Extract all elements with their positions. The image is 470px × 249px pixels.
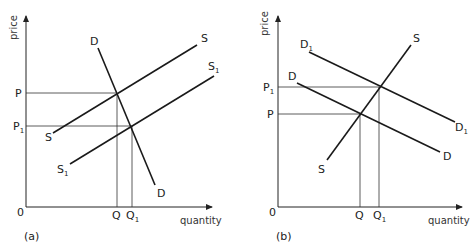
curve-label-d1-bottom-b: D1: [455, 121, 468, 136]
curve-label-d-top-b: D: [288, 70, 296, 83]
price-label-p-b: P: [267, 108, 274, 121]
supply-curve-s-a: [53, 45, 197, 133]
curve-label-d-bottom-b: D: [443, 150, 451, 163]
curve-label-s-bottom-b: S: [318, 163, 325, 176]
supply-curve-s-b: [327, 45, 411, 160]
caption-b: (b): [276, 230, 292, 243]
price-label-p-a: P: [15, 87, 22, 100]
origin-label-a: 0: [17, 206, 24, 219]
origin-label-b: 0: [269, 206, 276, 219]
curve-label-s-top-b: S: [413, 32, 420, 45]
x-axis-label-a: quantity: [180, 215, 222, 226]
curve-label-s1-bottom-a: S1: [57, 163, 68, 178]
caption-a: (a): [24, 230, 39, 243]
curve-label-s1-top-a: S1: [208, 60, 219, 75]
y-axis-label-b: price: [259, 11, 270, 36]
supply-curve-s1-a: [70, 76, 214, 164]
x-axis-label-b: quantity: [428, 215, 470, 226]
curve-label-d-bottom-a: D: [157, 187, 165, 200]
price-label-p1-a: P1: [13, 120, 24, 135]
panel-b: price quantity 0 (b) P1 P Q Q1 S S D1 D1…: [259, 11, 470, 243]
curve-label-s-bottom-a: S: [45, 131, 52, 144]
qty-label-q-a: Q: [112, 209, 121, 222]
panel-a: price quantity 0 (a) P P1 Q Q1 S S S1 S1…: [8, 15, 222, 243]
y-axis-label-a: price: [8, 15, 19, 40]
demand-curve-d-b: [297, 83, 440, 152]
curve-label-d1-top-b: D1: [300, 38, 313, 53]
curve-label-s-top-a: S: [201, 32, 208, 45]
qty-label-q-b: Q: [355, 209, 364, 222]
diagram-canvas: price quantity 0 (a) P P1 Q Q1 S S S1 S1…: [0, 0, 470, 249]
price-label-p1-b: P1: [263, 81, 274, 96]
qty-label-q1-b: Q1: [373, 209, 386, 224]
qty-label-q1-a: Q1: [126, 209, 139, 224]
curve-label-d-top-a: D: [90, 35, 98, 48]
